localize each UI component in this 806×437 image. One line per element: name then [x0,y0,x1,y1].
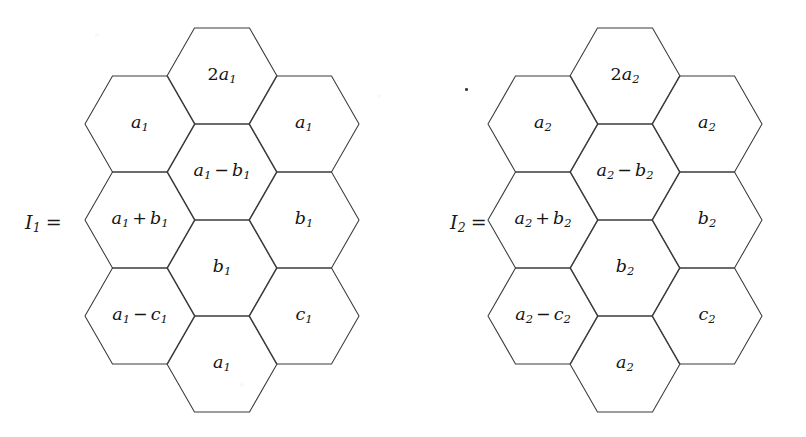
hexagon-cell [249,172,359,268]
honeycomb-outline-I1 [0,0,403,437]
hexagon-cell [249,76,359,172]
hexagon-cell [570,220,680,316]
hexagon-cell [85,76,195,172]
hexagon-cell [167,28,277,124]
honeycomb-figure-I2: I2=a2a2+b2a2−c22a2a2−b2b2a2a2b2c2 [403,0,806,437]
hexagon-cell [652,76,762,172]
hexagon-cell [167,316,277,412]
hexagon-cell [167,124,277,220]
hexagon-cell [488,76,598,172]
hexagon-cell [570,316,680,412]
hexagon-cell [570,124,680,220]
hexagon-cell [249,268,359,364]
hexagon-cell [652,268,762,364]
hexagon-cell [488,268,598,364]
hexagon-cell [85,172,195,268]
hexagon-cell [488,172,598,268]
hexagon-cell [652,172,762,268]
hexagon-cell [167,220,277,316]
figure-canvas: I1=a1a1+b1a1−c12a1a1−b1b1a1a1b1c1I2=a2a2… [0,0,806,437]
hexagon-cell [85,268,195,364]
hexagon-cell [570,28,680,124]
stray-period-mark [465,88,468,91]
honeycomb-outline-I2 [403,0,806,437]
